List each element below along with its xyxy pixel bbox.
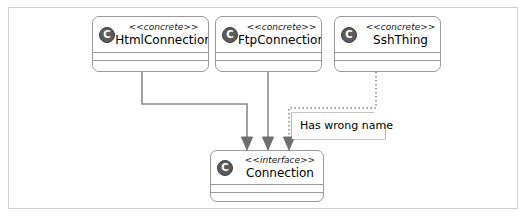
class-box-ftp-connection[interactable]: C <<concrete>> FtpConnection (215, 16, 322, 72)
class-name: HtmlConnection (115, 33, 209, 47)
operations-compartment (211, 193, 323, 201)
class-box-html-connection[interactable]: C <<concrete>> HtmlConnection (92, 16, 209, 72)
attributes-compartment (335, 53, 440, 61)
class-box-ssh-thing[interactable]: C <<concrete>> SshThing (334, 16, 441, 72)
class-icon: C (341, 27, 357, 43)
note-text: Has wrong name (300, 118, 393, 133)
class-header-html-connection: C <<concrete>> HtmlConnection (93, 17, 208, 53)
class-stereotype: <<concrete>> (247, 22, 317, 33)
operations-compartment (216, 61, 321, 69)
class-box-connection[interactable]: C <<interface>> Connection (210, 150, 324, 202)
class-stereotype: <<concrete>> (366, 22, 436, 33)
class-stereotype: <<concrete>> (129, 22, 199, 33)
class-icon: C (217, 160, 233, 176)
class-icon: C (99, 27, 115, 43)
operations-compartment (93, 61, 208, 69)
class-stereotype: <<interface>> (245, 155, 315, 166)
attributes-compartment (93, 53, 208, 61)
attributes-compartment (216, 53, 321, 61)
class-name: FtpConnection (238, 33, 322, 47)
class-header-connection: C <<interface>> Connection (211, 151, 323, 185)
operations-compartment (335, 61, 440, 69)
diagram-canvas: C <<concrete>> HtmlConnection C <<concre… (0, 0, 528, 218)
class-header-ftp-connection: C <<concrete>> FtpConnection (216, 17, 321, 53)
class-name: SshThing (373, 33, 428, 47)
class-name: Connection (246, 166, 314, 180)
class-icon: C (222, 27, 238, 43)
note-wrong-name[interactable]: Has wrong name (292, 113, 385, 139)
class-header-ssh-thing: C <<concrete>> SshThing (335, 17, 440, 53)
attributes-compartment (211, 185, 323, 193)
